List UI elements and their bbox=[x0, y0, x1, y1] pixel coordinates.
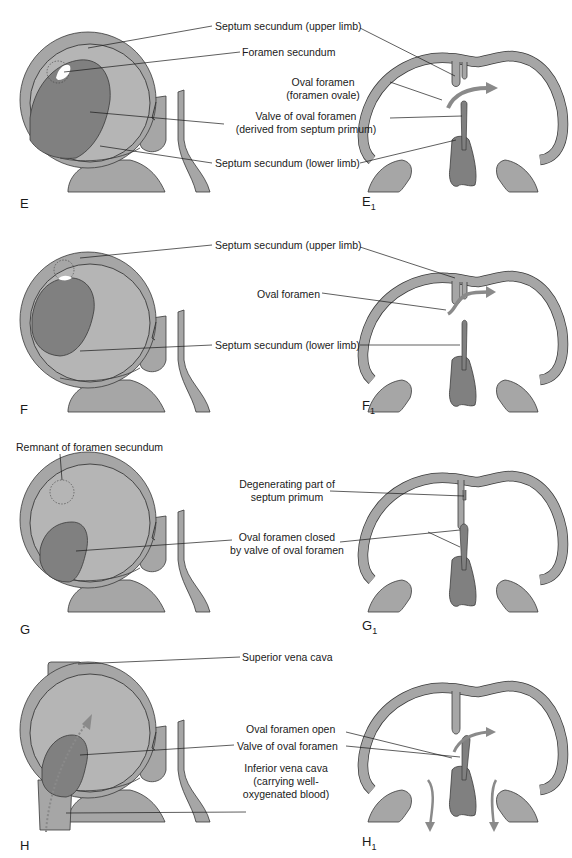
label-valve-oval-foramen-h: Valve of oval foramen bbox=[237, 740, 338, 753]
label-inferior-vena-cava-h: Inferior vena cava bbox=[244, 762, 327, 775]
label-derived-from-septum-primum-e: (derived from septum primum) bbox=[236, 123, 377, 136]
panel-label-g: G bbox=[20, 622, 30, 637]
label-by-valve-g: by valve of oval foramen bbox=[230, 544, 344, 557]
label-oval-foramen-e: Oval foramen bbox=[291, 76, 354, 89]
label-foramen-secundum-e: Foramen secundum bbox=[242, 46, 335, 59]
panel-f-left-heart bbox=[20, 252, 210, 412]
label-septum-secundum-lower-e: Septum secundum (lower limb) bbox=[215, 157, 360, 170]
label-remnant-foramen-secundum-g: Remnant of foramen secundum bbox=[16, 441, 163, 454]
label-oxygenated-blood-h: oxygenated blood) bbox=[243, 788, 329, 801]
label-oval-foramen-f: Oval foramen bbox=[257, 288, 320, 301]
panel-g-left-heart bbox=[20, 452, 210, 612]
panel-label-f: F bbox=[20, 402, 28, 417]
label-septum-secundum-upper-f: Septum secundum (upper limb) bbox=[215, 239, 361, 252]
panel-label-h: H bbox=[20, 838, 29, 853]
label-carrying-well-h: (carrying well- bbox=[253, 775, 318, 788]
label-septum-secundum-upper-e: Septum secundum (upper limb) bbox=[215, 20, 361, 33]
label-oval-foramen-closed-g: Oval foramen closed bbox=[239, 531, 335, 544]
label-oval-foramen-open-h: Oval foramen open bbox=[246, 723, 335, 736]
panel-label-f1: F1 bbox=[362, 398, 375, 416]
panel-h-right-heart bbox=[363, 686, 563, 832]
label-septum-secundum-lower-f: Septum secundum (lower limb) bbox=[215, 339, 360, 352]
panel-e-right-heart bbox=[363, 56, 563, 192]
panel-g-right-heart bbox=[363, 476, 563, 612]
label-foramen-ovale-e: (foramen ovale) bbox=[286, 89, 360, 102]
label-septum-primum-g: septum primum bbox=[251, 491, 323, 504]
panel-h-left-heart bbox=[20, 662, 210, 832]
label-superior-vena-cava-h: Superior vena cava bbox=[242, 651, 332, 664]
panel-label-e: E bbox=[20, 196, 29, 211]
panel-f-right-heart bbox=[363, 276, 563, 412]
panel-label-e1: E1 bbox=[362, 194, 376, 212]
label-degenerating-part-g: Degenerating part of bbox=[239, 478, 335, 491]
panel-label-g1: G1 bbox=[362, 618, 377, 636]
panel-label-h1: H1 bbox=[362, 834, 376, 852]
panel-e-left-heart bbox=[20, 32, 210, 192]
label-valve-oval-foramen-e: Valve of oval foramen bbox=[256, 110, 357, 123]
